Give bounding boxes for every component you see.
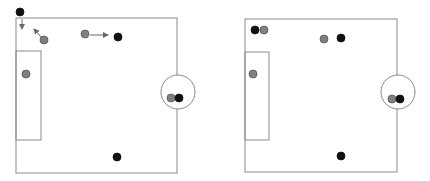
movement-arrow — [34, 29, 41, 37]
gray-player-marker — [260, 26, 268, 34]
black-player-marker — [251, 26, 259, 34]
goal-circle — [161, 75, 195, 109]
black-player-marker — [114, 33, 122, 41]
black-player-marker — [16, 8, 24, 16]
diagram-after — [245, 19, 415, 172]
gray-player-marker — [22, 70, 30, 78]
black-player-marker — [337, 152, 345, 160]
black-player-marker — [175, 94, 183, 102]
black-player-marker — [337, 34, 345, 42]
zone-rectangle — [245, 52, 269, 140]
play-diagram-canvas — [0, 0, 430, 181]
gray-player-marker — [388, 95, 396, 103]
black-player-marker — [113, 153, 121, 161]
gray-player-marker — [81, 30, 89, 38]
goal-circle — [381, 75, 415, 109]
diagram-before — [16, 8, 195, 173]
gray-player-marker — [167, 94, 175, 102]
gray-player-marker — [40, 36, 48, 44]
zone-rectangle — [16, 51, 41, 140]
gray-player-marker — [320, 35, 328, 43]
black-player-marker — [396, 95, 404, 103]
gray-player-marker — [249, 70, 257, 78]
